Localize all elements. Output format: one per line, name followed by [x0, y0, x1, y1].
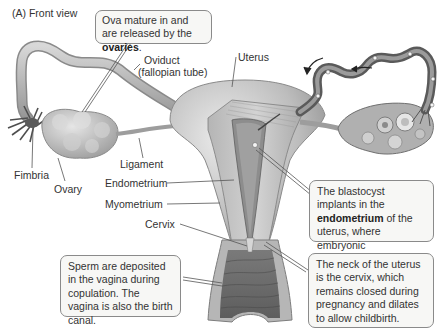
label-ovary: Ovary [54, 183, 82, 195]
label-myometrium: Myometrium [105, 198, 163, 210]
label-oviduct: Oviduct [144, 54, 180, 66]
callout-cervix-text: The neck of the uterus is the cervix, wh… [316, 258, 420, 324]
left-ligament [116, 126, 175, 134]
callout-cervix: The neck of the uterus is the cervix, wh… [308, 253, 434, 328]
callout-blastocyst: The blastocyst implants in the endometri… [309, 180, 434, 242]
label-uterus: Uterus [238, 51, 269, 63]
callout-blastocyst-bold: endometrium [317, 212, 384, 224]
callout-ovaries-text: Ova mature in and are released by the [102, 14, 192, 39]
label-fimbria: Fimbria [14, 169, 49, 181]
label-endometrium: Endometrium [105, 177, 167, 189]
panel-title: (A) Front view [12, 7, 77, 19]
uterus [170, 80, 325, 245]
callout-ovaries: Ova mature in and are released by the ov… [95, 10, 212, 44]
callout-vagina-text: Sperm are deposited in the vagina during… [68, 260, 172, 326]
label-ligament: Ligament [120, 158, 163, 170]
right-ovary-section [338, 103, 433, 154]
reproductive-anatomy-figure: (A) Front view Oviduct (fallopian tube) … [0, 0, 440, 331]
callout-vagina: Sperm are deposited in the vagina during… [60, 255, 181, 317]
label-cervix: Cervix [145, 218, 175, 230]
callout-ovaries-end: . [139, 41, 142, 53]
left-ovary [42, 109, 118, 158]
callout-blastocyst-text: The blastocyst implants in the [317, 185, 385, 210]
label-oviduct-sub: (fallopian tube) [138, 66, 207, 78]
callout-ovaries-bold: ovaries [102, 41, 139, 53]
